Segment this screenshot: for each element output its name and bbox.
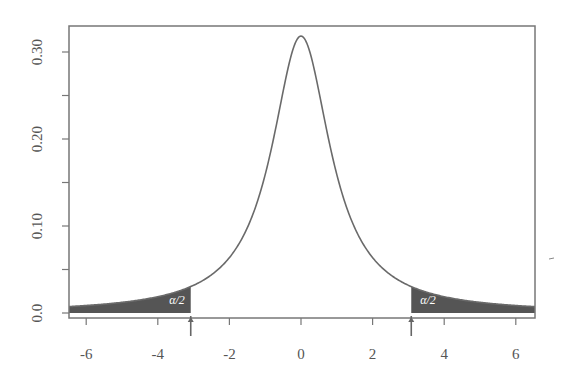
- x-tick-label: 6: [512, 346, 520, 362]
- x-axis: -6-4-20246: [80, 318, 520, 362]
- x-tick-label: 4: [440, 346, 448, 362]
- y-tick-label: 0.0: [29, 304, 45, 323]
- density-curve: [69, 36, 535, 307]
- y-tick-label: 0.30: [29, 39, 45, 65]
- x-tick-label: -4: [152, 346, 165, 362]
- x-tick-label: 0: [297, 346, 305, 362]
- x-tick-label: -2: [223, 346, 236, 362]
- plot-frame: [69, 26, 535, 318]
- right-alpha-label: α/2: [420, 293, 436, 307]
- x-tick-label: -6: [80, 346, 93, 362]
- y-tick-label: 0.20: [29, 126, 45, 152]
- density-chart: 0.00.100.200.30 -6-4-20246 α/2 α/2: [0, 0, 572, 388]
- y-tick-label: 0.10: [29, 213, 45, 239]
- left-alpha-label: α/2: [169, 293, 185, 307]
- x-tick-label: 2: [369, 346, 377, 362]
- y-axis: 0.00.100.200.30: [29, 39, 69, 323]
- stray-mark: [549, 258, 554, 259]
